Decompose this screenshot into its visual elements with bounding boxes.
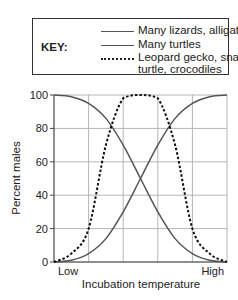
x-axis-label: Incubation temperature (82, 278, 200, 290)
line-chart: 020406080100 Low High Incubation tempera… (0, 0, 238, 300)
y-tick-label: 20 (36, 223, 48, 235)
y-axis-ticks: 020406080100 (30, 89, 54, 268)
y-tick-label: 60 (36, 156, 48, 168)
series-line-1 (54, 95, 227, 262)
y-tick-label: 80 (36, 122, 48, 134)
y-tick-label: 40 (36, 189, 48, 201)
y-axis-label: Percent males (10, 141, 22, 215)
y-tick-label: 100 (30, 89, 48, 101)
x-tick-high: High (201, 265, 224, 277)
chart-series (54, 95, 227, 262)
x-tick-low: Low (58, 265, 78, 277)
y-tick-label: 0 (42, 256, 48, 268)
